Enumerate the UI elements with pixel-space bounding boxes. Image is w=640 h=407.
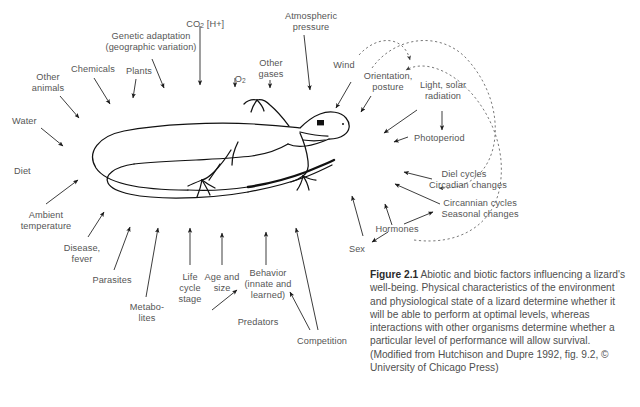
label-circannian-cycles: Circannian cycles — [443, 198, 517, 209]
arrow-chemicals — [94, 78, 110, 104]
label-plants: Plants — [126, 66, 152, 77]
label-chemicals: Chemicals — [71, 64, 115, 75]
label-predators: Predators — [238, 317, 279, 328]
figure-container: Water Other animals Chemicals Plants Gen… — [0, 0, 640, 407]
o2-text: O — [235, 74, 242, 84]
label-life-cycle-stage: Life cycle stage — [179, 272, 202, 305]
arrow-other-animals — [60, 96, 79, 118]
arrow-disease-fever — [88, 212, 104, 237]
label-wind: Wind — [333, 60, 354, 71]
arrow-sex — [352, 196, 363, 236]
loop-wind-orientation — [359, 41, 410, 60]
label-atmospheric-pressure: Atmospheric pressure — [285, 11, 337, 33]
label-parasites: Parasites — [92, 275, 131, 286]
label-hormones: Hormones — [375, 224, 418, 235]
arrow-metabolites — [146, 228, 158, 297]
label-other-gases: Other gases — [258, 58, 283, 80]
arrow-ambient-temperature — [46, 180, 78, 204]
label-circadian-changes: Circadian changes — [429, 180, 507, 191]
label-metabolites: Metabo- lites — [130, 302, 164, 324]
arrow-water — [41, 128, 63, 146]
label-o2: O2 — [224, 63, 246, 97]
label-photoperiod: Photoperiod — [414, 133, 465, 144]
co2-text: CO — [186, 19, 200, 29]
arrow-photoperiod — [394, 137, 408, 142]
label-disease-fever: Disease, fever — [64, 243, 101, 265]
arrow-hormones-right — [404, 212, 433, 224]
arrow-light-to-lizard — [384, 110, 417, 133]
label-ambient-temperature: Ambient temperature — [21, 210, 72, 232]
arrow-competition-short — [290, 292, 310, 330]
label-seasonal-changes: Seasonal changes — [441, 209, 518, 220]
arrow-atmospheric-pressure — [304, 35, 310, 90]
co2-suffix: [H+] — [204, 19, 224, 29]
label-sex: Sex — [349, 244, 365, 255]
arrow-competition-up — [296, 228, 318, 330]
arrow-genetic-adaptation — [152, 59, 164, 88]
figure-caption: Figure 2.1 Abiotic and biotic factors in… — [370, 268, 632, 374]
loop-light-diel — [372, 41, 495, 189]
label-orientation-posture: Orientation, posture — [364, 71, 413, 93]
o2-subscript: 2 — [242, 77, 246, 84]
caption-label: Figure 2.1 — [370, 269, 418, 280]
label-age-and-size: Age and size — [205, 272, 240, 294]
label-diet: Diet — [14, 166, 31, 177]
caption-body: Abiotic and biotic factors influencing a… — [370, 269, 625, 373]
lizard-drawing — [93, 100, 350, 198]
arrow-hormones-up — [385, 204, 392, 225]
arrow-wind — [336, 82, 351, 108]
arrow-parasites — [114, 227, 130, 270]
arrow-plants — [133, 79, 136, 98]
label-competition: Competition — [297, 336, 347, 347]
label-behavior: Behavior (innate and learned) — [244, 268, 291, 301]
label-co2: CO2 [H+] — [176, 8, 225, 42]
arrow-orientation — [361, 96, 371, 112]
arrow-diel — [404, 172, 432, 179]
label-diel-cycles: Diel cycles — [441, 169, 486, 180]
label-other-animals: Other animals — [32, 72, 64, 94]
label-light-solar-radiation: Light, solar radiation — [420, 80, 466, 102]
label-water: Water — [12, 116, 37, 127]
